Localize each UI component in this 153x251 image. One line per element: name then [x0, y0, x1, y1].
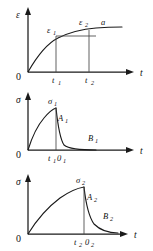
- panel-2-canvas: σ t 0 t 1 0 1 σ 1 A 1 B 1: [0, 83, 153, 167]
- panel-2-origin-label: 0: [16, 149, 21, 160]
- panel-2-y-axis-arrowhead: [25, 92, 31, 100]
- panel-3-annotation-b2: B 2: [103, 211, 113, 222]
- panel-2-tick-t1-text: t: [48, 153, 51, 163]
- panel-3-loading-curve: [28, 187, 84, 234]
- panel-1-annotation-eps2-subscript: 2: [85, 21, 88, 28]
- panel-3-annotation-b2-subscript: 2: [110, 215, 113, 222]
- panel-2-annotation-sigma1-text: σ: [48, 96, 53, 106]
- panel-3-annotation-a2-text: A: [86, 192, 93, 202]
- figure-root: ε t 0 t 1 t 2 ε 1 ε 2 a: [0, 0, 153, 251]
- panel-3-tick-o2-text: 0: [85, 237, 90, 247]
- panel-1-annotation-eps1: ε 1: [47, 25, 56, 36]
- panel-1-y-axis-arrowhead: [25, 7, 31, 15]
- panel-3-origin-label: 0: [16, 233, 21, 244]
- panel-3-annotation-sigma2-subscript: 2: [82, 179, 85, 186]
- panel-3-y-axis-arrowhead: [25, 174, 31, 182]
- panel-3-tick-t2: t 2: [74, 237, 82, 248]
- panel-1-x-axis-label: t: [140, 68, 143, 78]
- panel-2-annotation-b1: B 1: [88, 133, 98, 144]
- panel-2-annotation-b1-text: B: [88, 133, 93, 143]
- panel-3-tick-o2-subscript: 2: [91, 241, 94, 248]
- panel-1-x-axis-arrowhead: [126, 69, 134, 75]
- panel-3-tick-o2: 0 2: [85, 237, 94, 248]
- panel-2-tick-o1-subscript: 1: [63, 157, 66, 164]
- panel-2-annotation-sigma1-subscript: 1: [54, 100, 57, 107]
- panel-3-x-axis-label: t: [134, 230, 137, 240]
- panel-2-tick-o1-text: 0: [57, 153, 62, 163]
- panel-1-annotation-eps2-text: ε: [79, 17, 83, 27]
- panel-3-annotation-b2-text: B: [103, 211, 108, 221]
- panel-2-annotation-a1-text: A: [57, 113, 64, 123]
- panel-3-tick-t2-text: t: [74, 237, 77, 247]
- panel-2-annotation-a1-subscript: 1: [65, 117, 68, 124]
- panel-1-origin-label: 0: [16, 71, 21, 82]
- panel-3-annotation-a2-subscript: 2: [94, 196, 97, 203]
- panel-stress-relaxation-1: σ t 0 t 1 0 1 σ 1 A 1 B 1: [0, 83, 153, 167]
- panel-1-annotation-eps2: ε 2: [79, 17, 88, 28]
- panel-stress-relaxation-2: σ t 0 t 2 0 2 σ 2 A 2 B 2: [0, 167, 153, 251]
- panel-1-creep-curve: [28, 27, 122, 72]
- panel-3-canvas: σ t 0 t 2 0 2 σ 2 A 2 B 2: [0, 167, 153, 251]
- panel-1-annotation-eps1-subscript: 1: [53, 29, 56, 36]
- panel-2-annotation-sigma1: σ 1: [48, 96, 57, 107]
- panel-1-annotation-a: a: [101, 17, 105, 27]
- panel-strain-vs-time: ε t 0 t 1 t 2 ε 1 ε 2 a: [0, 0, 153, 85]
- panel-1-y-axis-label: ε: [16, 10, 20, 20]
- panel-2-tick-o1: 0 1: [57, 153, 66, 164]
- panel-2-annotation-a1: A 1: [57, 113, 68, 124]
- panel-3-annotation-sigma2-text: σ: [76, 175, 81, 185]
- panel-1-canvas: ε t 0 t 1 t 2 ε 1 ε 2 a: [0, 0, 153, 85]
- panel-3-tick-t2-subscript: 2: [79, 241, 82, 248]
- panel-2-loading-curve: [28, 108, 56, 150]
- panel-1-annotation-eps1-text: ε: [47, 25, 51, 35]
- panel-2-x-axis-arrowhead: [126, 147, 134, 153]
- panel-2-y-axis-label: σ: [16, 95, 21, 105]
- panel-3-annotation-sigma2: σ 2: [76, 175, 85, 186]
- panel-3-y-axis-label: σ: [16, 177, 21, 187]
- panel-2-tick-t1-subscript: 1: [53, 157, 56, 164]
- panel-2-annotation-b1-subscript: 1: [95, 137, 98, 144]
- panel-3-x-axis-arrowhead: [120, 231, 128, 237]
- panel-2-x-axis-label: t: [140, 146, 143, 156]
- panel-3-annotation-a2: A 2: [86, 192, 97, 203]
- panel-2-tick-t1: t 1: [48, 153, 56, 164]
